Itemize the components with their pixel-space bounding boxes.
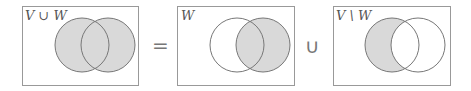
panel-label: V ∪ W (25, 8, 69, 23)
panel-difference: V \ W (334, 7, 451, 86)
panel-union: V ∪ W (23, 7, 139, 86)
venn-diagram-equation: V ∪ W = W ∪ V \ W (0, 0, 471, 91)
panel-label: W (181, 8, 196, 23)
panel-w: W (178, 7, 295, 86)
equals-operator: = (152, 33, 169, 57)
panel-label: V \ W (336, 8, 373, 23)
union-operator: ∪ (305, 34, 320, 58)
